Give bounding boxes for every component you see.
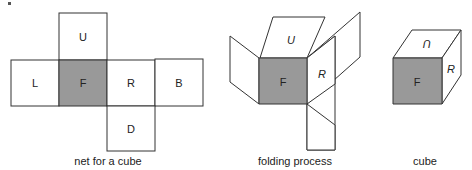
folding-label-up: U xyxy=(287,34,295,46)
cube-label-front: F xyxy=(414,76,421,88)
folding-label-front: F xyxy=(280,76,287,88)
folding-caption: folding process xyxy=(258,155,332,167)
net-label-left: L xyxy=(32,77,38,89)
folding-group xyxy=(230,12,360,150)
net-group xyxy=(11,13,203,151)
cube-label-up: U xyxy=(423,38,431,50)
net-label-front: F xyxy=(80,77,87,89)
corner-mark xyxy=(8,2,11,5)
folding-face-left xyxy=(230,36,259,104)
folding-face-down xyxy=(307,104,335,150)
net-caption: net for a cube xyxy=(74,155,141,167)
folding-label-right: R xyxy=(318,68,326,80)
net-label-back: B xyxy=(175,77,182,89)
net-label-up: U xyxy=(79,31,87,43)
net-label-down: D xyxy=(127,123,135,135)
cube-net-diagram: U L F R B D net for a cube U F R folding… xyxy=(0,0,472,170)
cube-label-right: R xyxy=(447,63,455,75)
net-label-right: R xyxy=(127,77,135,89)
cube-caption: cube xyxy=(413,155,437,167)
